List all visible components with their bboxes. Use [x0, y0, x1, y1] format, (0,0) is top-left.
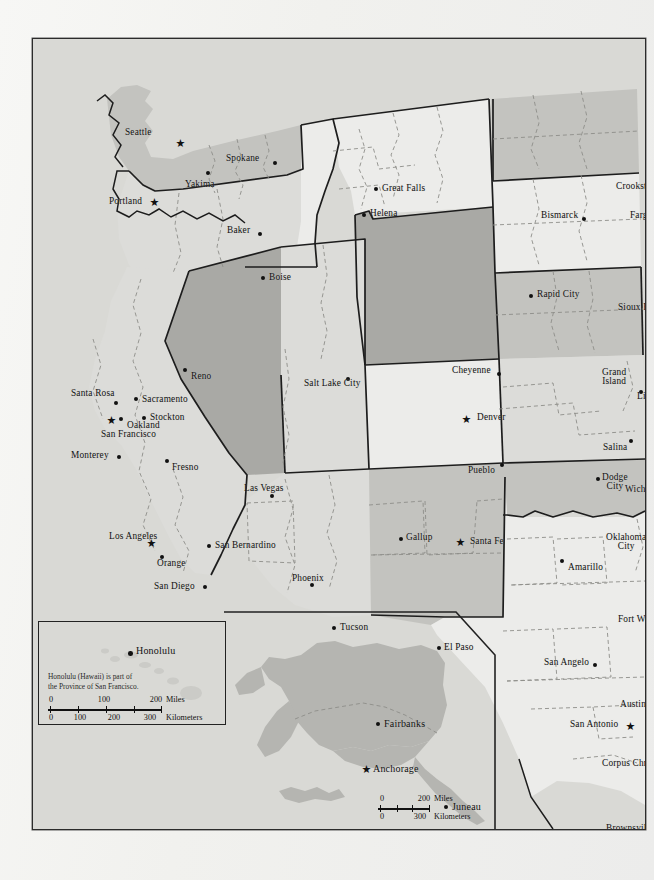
hawaii-km-tick-0: 0 — [49, 713, 53, 722]
city-label-wichita: Wichita — [625, 485, 646, 494]
city-label-las-vegas: Las Vegas — [244, 484, 284, 493]
city-label-anchorage: Anchorage — [373, 764, 419, 774]
city-label-denver: Denver — [477, 413, 506, 422]
city-label-cheyenne: Cheyenne — [452, 366, 491, 375]
city-label-boise: Boise — [269, 273, 291, 282]
city-label-san-francisco: San Francisco — [101, 430, 156, 439]
city-label-santa-fe: Santa Fe — [470, 537, 504, 546]
city-label-baker: Baker — [227, 226, 250, 235]
city-label-gallup: Gallup — [406, 533, 433, 542]
city-label-san-diego: San Diego — [154, 582, 195, 591]
city-marker-anchorage-star[interactable]: ★ — [362, 764, 372, 775]
alaska-mile-tick-0: 0 — [380, 794, 384, 803]
city-label-yakima: Yakima — [185, 180, 215, 189]
city-label-bismarck: Bismarck — [541, 211, 578, 220]
hawaii-note: Honolulu (Hawaii) is part of the Provinc… — [48, 672, 208, 692]
city-label-santa-rosa: Santa Rosa — [71, 389, 115, 398]
city-label-austin: Austin — [620, 700, 646, 709]
hawaii-honolulu-dot — [128, 651, 133, 656]
city-label-sioux-falls: Sioux Falls — [618, 303, 646, 312]
alaska-scale-bar: 0 200 Miles 0 300 Kilometers — [378, 794, 528, 823]
city-label-san-angelo: San Angelo — [544, 658, 589, 667]
hawaii-scale-miles-row: 0 100 200 Miles — [48, 695, 212, 706]
city-label-fresno: Fresno — [172, 463, 199, 472]
state-nebraska — [495, 267, 643, 359]
city-label-helena: Helena — [370, 209, 398, 218]
city-label-orange: Orange — [157, 559, 186, 568]
city-label-fargo: Fargo — [630, 211, 646, 220]
alaska-km-unit: Kilometers — [434, 812, 470, 821]
hawaii-scale-km-row: 0 100 200 300 Kilometers — [48, 713, 212, 724]
city-marker-portland-star[interactable]: ★ — [150, 197, 160, 208]
hawaii-scale-graphic — [48, 706, 212, 713]
city-label-san-bernardino: San Bernardino — [215, 541, 276, 550]
hawaii-km-unit: Kilometers — [166, 713, 202, 722]
city-label-san-antonio: San Antonio — [570, 720, 618, 729]
alaska-km-tick-1: 300 — [414, 812, 426, 821]
hawaii-mile-tick-1: 100 — [98, 695, 110, 704]
hawaii-scale-bar: 0 100 200 Miles 0 100 200 30 — [48, 695, 212, 724]
alaska-km-tick-0: 0 — [380, 812, 384, 821]
city-label-lincoln: Lincoln — [637, 392, 646, 401]
city-label-oklahoma-city: Oklahoma City — [606, 533, 646, 552]
city-marker-denver-star[interactable]: ★ — [462, 414, 472, 425]
city-label-reno: Reno — [191, 372, 211, 381]
city-marker-seattle-star[interactable]: ★ — [176, 138, 186, 149]
hawaii-inset[interactable]: Honolulu Honolulu (Hawaii) is part of th… — [38, 621, 226, 725]
hawaii-honolulu-label: Honolulu — [136, 646, 175, 656]
city-label-dodge-city: Dodge City — [602, 473, 628, 492]
city-label-brownsville: Brownsville — [606, 824, 646, 830]
city-label-spokane: Spokane — [226, 154, 259, 163]
map-frame[interactable]: .sfill-0{fill:#ececea;} .sfill-1{fill:#d… — [32, 38, 646, 830]
city-label-grand-island: Grand Island — [602, 368, 626, 387]
alaska-mile-unit: Miles — [434, 794, 453, 803]
city-marker-san-francisco-star[interactable]: ★ — [107, 415, 117, 426]
alaska-scale-km-row: 0 300 Kilometers — [378, 812, 528, 823]
city-label-fairbanks: Fairbanks — [384, 719, 425, 729]
city-label-salina: Salina — [603, 443, 627, 452]
city-label-great-falls: Great Falls — [382, 184, 425, 193]
city-label-rapid-city: Rapid City — [537, 290, 580, 299]
hawaii-km-tick-1: 100 — [74, 713, 86, 722]
hawaii-mile-tick-2: 200 — [150, 695, 162, 704]
hawaii-mile-unit: Miles — [166, 695, 185, 704]
city-label-fort-worth: Fort Worth — [618, 615, 646, 624]
city-label-seattle: Seattle — [125, 128, 152, 137]
city-label-phoenix: Phoenix — [292, 574, 324, 583]
alaska-mile-tick-1: 200 — [418, 794, 430, 803]
city-label-los-angeles: Los Angeles — [109, 532, 157, 541]
hawaii-km-tick-2: 200 — [108, 713, 120, 722]
hawaii-mile-tick-0: 0 — [49, 695, 53, 704]
city-marker-san-antonio-star[interactable]: ★ — [626, 721, 636, 732]
city-label-portland: Portland — [109, 197, 142, 206]
hawaii-km-tick-3: 300 — [144, 713, 156, 722]
city-label-pueblo: Pueblo — [468, 466, 495, 475]
atlas-page: .sfill-0{fill:#ececea;} .sfill-1{fill:#d… — [0, 0, 654, 880]
alaska-scale-graphic — [378, 805, 528, 812]
city-label-salt-lake-city: Salt Lake City — [304, 379, 361, 388]
city-label-amarillo: Amarillo — [568, 563, 603, 572]
state-wyoming — [355, 207, 499, 365]
city-marker-santa-fe-star[interactable]: ★ — [456, 537, 466, 548]
city-label-corpus-christi: Corpus Christi — [602, 759, 646, 768]
city-label-crookston: Crookston — [616, 182, 646, 191]
city-label-sacramento: Sacramento — [142, 395, 188, 404]
city-label-monterey: Monterey — [71, 451, 109, 460]
alaska-scale-miles-row: 0 200 Miles — [378, 794, 528, 805]
